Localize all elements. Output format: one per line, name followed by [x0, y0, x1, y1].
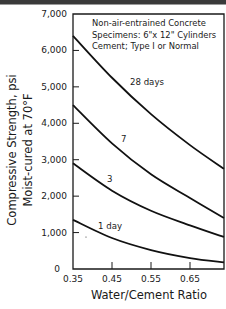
curve-label: 1 day	[98, 221, 122, 231]
curve-28-days	[73, 36, 224, 169]
curves	[73, 36, 224, 263]
annotation-line: Non-air-entrained Concrete	[92, 18, 206, 28]
y-tick-label: 2,000	[41, 191, 67, 201]
y-tick-label: 5,000	[41, 82, 67, 92]
x-tick-label: 0.55	[141, 274, 161, 284]
x-tick-label: 0.65	[180, 274, 200, 284]
curve-label: 28 days	[130, 77, 164, 87]
y-tick-label: 1,000	[41, 228, 67, 238]
stray-dot	[85, 236, 86, 237]
labels: Water/Cement RatioCompressive Strength, …	[5, 18, 216, 302]
curve-1-day	[73, 220, 224, 263]
curve-7-days	[73, 105, 224, 218]
x-tick-label: 0.35	[63, 274, 83, 284]
y-tick-label: 3,000	[41, 155, 67, 165]
y-axis-title: Compressive Strength, psi	[5, 74, 19, 225]
y-tick-label: 4,000	[41, 118, 67, 128]
curve-label: 3	[107, 174, 112, 184]
y-tick-label: 7,000	[41, 9, 67, 19]
curve-label: 7	[121, 134, 126, 144]
annotation-line: Specimens: 6"x 12" Cylinders	[92, 30, 216, 40]
strength-chart: 01,0002,0003,0004,0005,0006,0007,0000.35…	[0, 0, 226, 309]
y-tick-label: 0	[54, 264, 60, 274]
y-axis-subtitle: Moist-cured at 70°F	[21, 93, 35, 206]
x-axis-title: Water/Cement Ratio	[91, 288, 207, 302]
curve-3-days	[73, 163, 224, 237]
y-tick-label: 6,000	[41, 45, 67, 55]
x-tick-label: 0.45	[102, 274, 122, 284]
annotation-line: Cement; Type I or Normal	[92, 41, 199, 51]
